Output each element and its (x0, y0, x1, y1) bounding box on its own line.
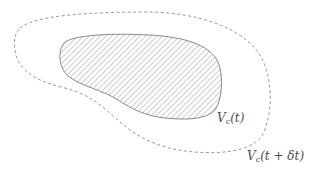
inner-volume-argument: (t) (230, 111, 244, 125)
outer-volume-argument: (t + δt) (260, 149, 304, 163)
control-volume-diagram (0, 0, 313, 169)
outer-volume-label: Vc(t + δt) (247, 150, 304, 164)
inner-volume-symbol: V (217, 111, 226, 125)
outer-volume-symbol: V (247, 149, 256, 163)
inner-control-volume-region (60, 34, 222, 119)
inner-volume-label: Vc(t) (217, 112, 244, 126)
